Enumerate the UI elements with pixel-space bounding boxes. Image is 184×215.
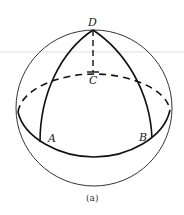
sphere-outline [16,30,172,186]
arc-DB [93,30,152,138]
sphere-diagram: D C A B (a) [0,0,184,215]
figure-caption: (a) [86,193,98,203]
label-A: A [47,132,56,145]
label-D: D [87,16,97,29]
label-C: C [89,74,98,87]
label-B: B [138,131,147,144]
arc-DA [40,30,93,142]
